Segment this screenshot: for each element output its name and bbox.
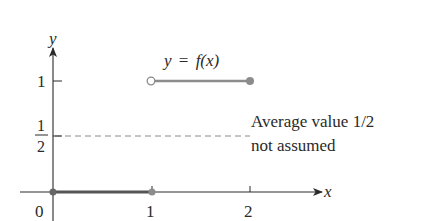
function-label-y: y [162, 51, 172, 70]
x-tick-label-1: 1 [146, 202, 155, 221]
y-half-numerator: 1 [37, 117, 45, 134]
origin-label: 0 [35, 202, 44, 221]
y-axis-label: y [47, 29, 57, 48]
function-label-f: f(x) [196, 51, 220, 70]
closed-point-origin [50, 189, 57, 196]
y-half-denominator: 2 [37, 138, 45, 155]
function-label: y = f(x) [162, 51, 220, 70]
chart: y x 0 1 2 1 1 2 y = f(x) Average value 1… [0, 0, 431, 221]
x-axis-label: x [323, 182, 332, 201]
y-tick-label-1: 1 [37, 72, 46, 91]
x-tick-label-2: 2 [244, 202, 253, 221]
function-label-eq: = [179, 51, 189, 70]
annotation-line-1: Average value 1/2 [251, 112, 374, 131]
open-point-x1-y1 [147, 77, 155, 85]
closed-point-x1 [149, 189, 156, 196]
annotation-line-2: not assumed [251, 136, 336, 155]
closed-point-x2-y1 [246, 77, 254, 85]
